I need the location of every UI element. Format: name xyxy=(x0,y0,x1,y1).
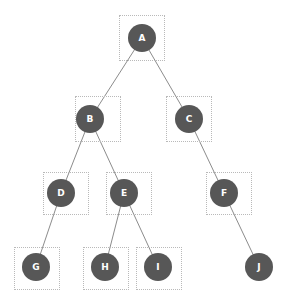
node-label-c: C xyxy=(186,115,193,124)
node-circle-h[interactable]: H xyxy=(91,253,119,281)
node-circle-f[interactable]: F xyxy=(210,179,238,207)
node-label-h: H xyxy=(101,263,109,272)
node-circle-c[interactable]: C xyxy=(175,105,203,133)
node-circle-d[interactable]: D xyxy=(47,179,75,207)
node-circle-e[interactable]: E xyxy=(110,179,138,207)
node-label-a: A xyxy=(139,34,146,43)
node-label-b: B xyxy=(87,115,94,124)
node-label-j: J xyxy=(257,263,260,272)
node-label-d: D xyxy=(57,189,64,198)
node-label-f: F xyxy=(221,189,227,198)
node-circle-j[interactable]: J xyxy=(245,253,273,281)
node-label-e: E xyxy=(121,189,127,198)
node-circle-b[interactable]: B xyxy=(76,105,104,133)
tree-diagram-canvas: ABCDEFGHIJ xyxy=(0,0,291,302)
node-circle-g[interactable]: G xyxy=(22,253,50,281)
node-layer: ABCDEFGHIJ xyxy=(0,0,291,302)
node-circle-a[interactable]: A xyxy=(128,24,156,52)
node-circle-i[interactable]: I xyxy=(144,253,172,281)
node-label-i: I xyxy=(156,263,159,272)
node-label-g: G xyxy=(32,263,39,272)
